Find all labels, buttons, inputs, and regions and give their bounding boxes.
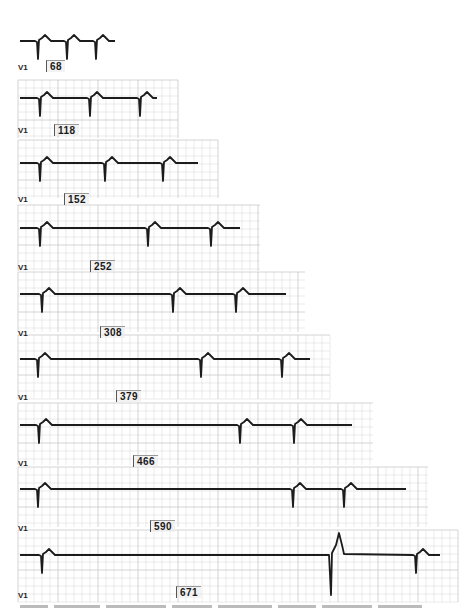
ecg-strip [18, 140, 218, 198]
ecg-strip [18, 530, 458, 602]
strip-count-label: 466 [133, 455, 158, 467]
ecg-strips-canvas [0, 0, 459, 611]
ecg-strip [18, 403, 373, 465]
ecg-strip [18, 80, 178, 138]
ecg-strip [18, 205, 260, 271]
ecg-trace [20, 353, 310, 377]
ecg-strip [18, 272, 305, 332]
strip-count-label: 118 [54, 124, 79, 136]
strip-count-label: 68 [46, 60, 65, 72]
ecg-trace [20, 35, 115, 59]
lead-label: V1 [18, 126, 28, 135]
strip-count-label: 671 [176, 586, 201, 598]
strip-count-label: 379 [116, 390, 141, 402]
figure-caption-cut-off [20, 605, 450, 611]
strip-count-label: 252 [90, 260, 115, 272]
lead-label: V1 [18, 524, 28, 533]
lead-label: V1 [18, 393, 28, 402]
ecg-strip [20, 35, 115, 59]
lead-label: V1 [18, 591, 28, 600]
strip-count-label: 590 [150, 520, 175, 532]
lead-label: V1 [18, 195, 28, 204]
lead-label: V1 [18, 63, 28, 72]
lead-label: V1 [18, 263, 28, 272]
lead-label: V1 [18, 329, 28, 338]
ecg-trace [20, 288, 286, 312]
ecg-figure: V168V1118V1152V1252V1308V1379V1466V1590V… [0, 0, 459, 611]
ecg-trace [20, 157, 198, 181]
strip-count-label: 152 [64, 193, 89, 205]
ecg-strip [18, 335, 330, 399]
ecg-trace [20, 483, 406, 507]
ecg-strip [18, 467, 428, 527]
strip-count-label: 308 [100, 326, 125, 338]
ecg-trace [20, 533, 440, 595]
lead-label: V1 [18, 459, 28, 468]
